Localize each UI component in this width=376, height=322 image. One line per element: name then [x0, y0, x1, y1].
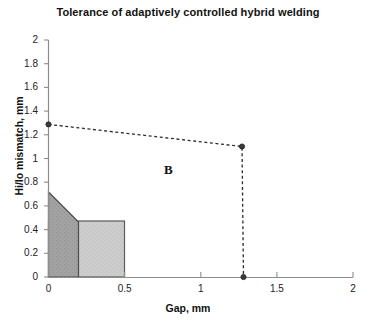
- y-tick-label: 0.4: [12, 224, 38, 235]
- region-annotation-b: B: [164, 162, 173, 178]
- y-tick-label: 1.8: [12, 58, 38, 69]
- inner-tolerance-region: [49, 192, 79, 277]
- chart-container: Tolerance of adaptively controlled hybri…: [0, 0, 376, 322]
- y-axis-ticks: [44, 40, 49, 277]
- y-axis-title: Hi/lo mismatch, mm: [13, 71, 25, 221]
- x-tick-label: 0.5: [110, 283, 140, 294]
- y-tick-label: 0: [12, 271, 38, 282]
- plot-area: [0, 0, 376, 322]
- data-point: [239, 144, 244, 149]
- data-point: [46, 122, 51, 127]
- x-axis-title: Gap, mm: [0, 302, 376, 314]
- x-tick-label: 0: [34, 283, 64, 294]
- x-tick-label: 1.5: [262, 283, 292, 294]
- x-tick-label: 2: [338, 283, 368, 294]
- y-tick-label: 2: [12, 34, 38, 45]
- x-tick-label: 1: [186, 283, 216, 294]
- y-tick-label: 0.2: [12, 247, 38, 258]
- data-point: [241, 274, 246, 279]
